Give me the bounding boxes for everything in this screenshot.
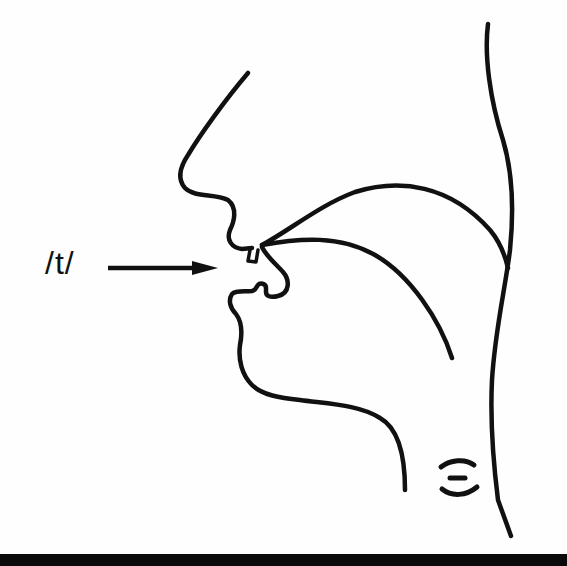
upper-tooth: [248, 250, 258, 262]
tongue-tip-lower-lip: [230, 247, 405, 490]
tongue: [262, 240, 452, 358]
pointer-arrow: [108, 261, 218, 275]
phoneme-label: /t/: [45, 247, 75, 279]
palate-velum: [262, 186, 508, 268]
articulation-diagram: /t/: [0, 0, 567, 566]
voicing-vibration-top: [441, 461, 474, 467]
face-profile-upper: [180, 73, 252, 249]
vocal-tract-drawing: [0, 0, 567, 566]
voicing-vibration-bottom: [442, 487, 477, 494]
pharynx-wall: [487, 24, 512, 536]
bottom-border-bar: [0, 554, 567, 566]
